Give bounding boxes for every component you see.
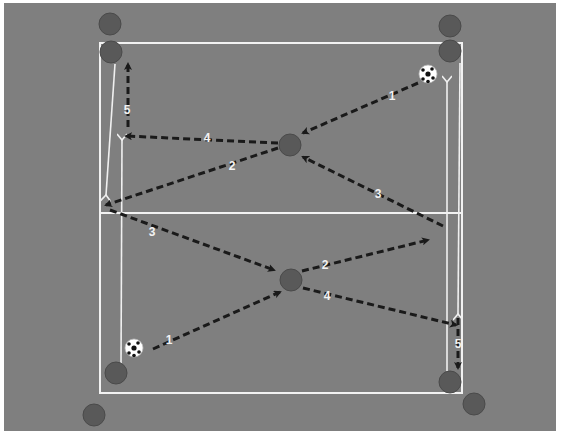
pass-number-label: 1 [166,333,173,347]
player-center-bottom-icon [280,269,302,291]
player-top-left-outside-icon [99,13,121,35]
player-bottom-left-outside-icon [83,404,105,426]
player-bottom-right-outside-icon [463,393,485,415]
drill-diagram: 1234512345 [0,0,561,434]
pass-number-label: 5 [455,337,462,351]
ball-top-right-soccer-ball-icon [419,65,437,83]
pass-number-label: 4 [324,289,331,303]
player-top-right-outside-icon [439,15,461,37]
pass-number-label: 3 [149,225,156,239]
pass-number-label: 2 [322,258,329,272]
pass-number-label: 4 [204,131,211,145]
field-layer [0,0,561,434]
player-top-left-corner-icon [100,41,122,63]
pass-number-label: 2 [229,159,236,173]
player-center-top-icon [279,134,301,156]
player-top-right-corner-icon [439,40,461,62]
run-top-left-up-arrow [121,140,122,366]
field-background [4,3,556,431]
pass-number-label: 3 [375,187,382,201]
ball-bottom-left-soccer-ball-icon [125,339,143,357]
player-bottom-left-corner-icon [105,362,127,384]
pass-number-label: 5 [124,103,131,117]
player-bottom-right-corner-icon [439,371,461,393]
pass-number-label: 1 [389,89,396,103]
